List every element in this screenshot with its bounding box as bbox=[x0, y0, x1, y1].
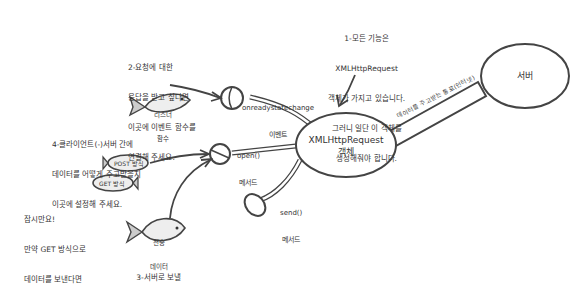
data-line1: 전송 bbox=[150, 239, 168, 247]
wait-note-line: 잠시만요! bbox=[24, 215, 96, 225]
send-line1: send() bbox=[280, 209, 302, 218]
wait-note-line: 데이터를 보낸다면 bbox=[24, 275, 96, 285]
note-1-line: 1-모든 기능은 bbox=[328, 34, 405, 44]
send-label: send() 메서드 bbox=[280, 191, 302, 254]
note-3: 3-서버로 보낼 데이터를 생성해 주세요. bbox=[120, 253, 197, 291]
note-1-line: 객체가 가지고 있습니다. bbox=[328, 94, 405, 104]
note-2-line: 2-요청에 대한 bbox=[128, 63, 196, 73]
server-label: 서버 bbox=[505, 69, 545, 82]
note-1-line: 생성해줘야 합니다. bbox=[328, 154, 405, 164]
onreadystatechange-plug-icon bbox=[221, 87, 243, 109]
wait-note-line: 만약 GET 방식으로 bbox=[24, 245, 96, 255]
send-line2: 메서드 bbox=[280, 236, 302, 245]
note-1-line: 그러니 일단 이 객체를 bbox=[328, 124, 405, 134]
note-2-line: 응답을 받고 싶다면 bbox=[128, 93, 196, 103]
open-plug-icon bbox=[210, 144, 230, 164]
note-1-line: XMLHttpRequest bbox=[328, 64, 405, 74]
wait-note: 잠시만요! 만약 GET 방식으로 데이터를 보낸다면 데이터를 URL에 붙여… bbox=[24, 195, 96, 291]
open-label: open() 메서드 bbox=[237, 134, 260, 197]
note-1: 1-모든 기능은 XMLHttpRequest 객체가 가지고 있습니다. 그러… bbox=[328, 14, 405, 174]
open-line2: 메서드 bbox=[237, 179, 260, 188]
note-3-line: 3-서버로 보낼 bbox=[120, 273, 197, 283]
note-4-line: 4-클라이언트(-)서버 간에 bbox=[52, 140, 141, 150]
open-line1: open() bbox=[237, 152, 260, 161]
note-4-line: 데이터를 어떻게 주고받을지 bbox=[52, 170, 141, 180]
onreadystatechange-line1: onreadystatechange bbox=[242, 104, 314, 113]
